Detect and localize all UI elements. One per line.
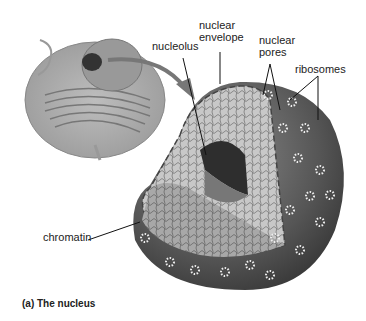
label-nucleolus: nucleolus: [152, 40, 198, 52]
nucleus-cutaway: [133, 82, 344, 290]
label-chromatin: chromatin: [43, 231, 91, 243]
figure-caption: (a) The nucleus: [22, 298, 95, 309]
label-nuclear-envelope-line1: nuclear: [199, 19, 235, 31]
label-ribosomes: ribosomes: [295, 63, 346, 75]
label-nuclear-pores-line2: pores: [259, 46, 287, 58]
label-nuclear-pores-line1: nuclear: [259, 34, 295, 46]
label-nuclear-envelope-line2: envelope: [199, 31, 244, 43]
cell-illustration: [25, 39, 165, 160]
